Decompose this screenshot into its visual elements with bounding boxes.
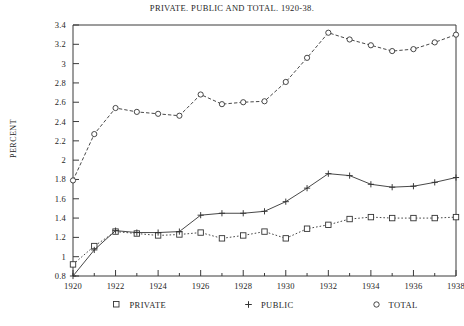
y-tick-label: 1.8 [55,174,66,184]
data-point-plus [389,184,395,190]
x-tick-label: 1928 [234,281,252,291]
data-point-open-circle [390,48,395,53]
x-tick-label: 1936 [405,281,423,291]
legend-item-private[interactable]: PRIVATE [111,299,166,310]
data-point-open-circle [326,30,331,35]
data-point-plus [432,179,438,185]
data-point-open-circle [283,79,288,84]
data-point-open-square [326,222,331,227]
data-point-open-circle [368,43,373,48]
data-point-plus [261,208,267,214]
data-point-plus [304,185,310,191]
series-total [70,30,458,183]
data-point-open-square [432,215,437,220]
data-point-open-circle [432,40,437,45]
open-circle-icon [371,299,382,310]
x-tick-label: 1926 [192,281,210,291]
data-point-open-circle [113,105,118,110]
data-point-plus [219,210,225,216]
legend-item-label: TOTAL [389,300,418,310]
open-square-icon [111,299,122,310]
data-point-open-circle [219,102,224,107]
data-point-plus [283,199,289,205]
data-point-open-square [347,216,352,221]
axes: 0.811.21.41.61.822.22.42.62.833.23.41920… [55,20,464,291]
chart-figure: PRIVATE. PUBLIC AND TOTAL. 1920-38. PERC… [0,0,464,326]
series-private [70,214,458,267]
y-tick-label: 2.8 [55,78,66,88]
data-point-open-circle [70,178,75,183]
data-series [70,30,459,279]
data-point-open-square [304,226,309,231]
y-tick-label: 2.2 [55,136,66,146]
y-tick-label: 2.6 [55,97,66,107]
legend-item-public[interactable]: PUBLIC [243,299,294,310]
data-point-open-circle [241,100,246,105]
x-tick-label: 1932 [319,281,337,291]
series-public [70,171,459,280]
legend-item-label: PUBLIC [261,300,294,310]
data-point-open-square [219,236,224,241]
data-point-open-square [453,214,458,219]
y-tick-label: 0.8 [55,271,66,281]
legend-item-label: PRIVATE [129,300,166,310]
data-point-open-square [411,215,416,220]
data-point-open-circle [198,92,203,97]
data-point-open-square [389,215,394,220]
data-point-open-circle [347,37,352,42]
x-tick-label: 1922 [107,281,125,291]
y-tick-label: 1.6 [55,194,66,204]
x-tick-label: 1924 [149,281,167,291]
x-tick-label: 1930 [277,281,295,291]
data-point-open-square [70,262,75,267]
data-point-plus [368,181,374,187]
legend-item-total[interactable]: TOTAL [371,299,418,310]
data-point-open-circle [92,131,97,136]
plus-icon [243,299,254,310]
data-point-plus [410,183,416,189]
data-point-plus [453,174,459,180]
data-point-plus [240,210,246,216]
data-point-open-circle [262,99,267,104]
data-point-open-square [283,236,288,241]
chart-legend: PRIVATEPUBLICTOTAL [73,299,456,310]
y-tick-label: 3.4 [55,20,67,30]
data-point-open-square [262,229,267,234]
data-point-open-square [368,214,373,219]
data-point-open-circle [304,55,309,60]
x-tick-label: 1920 [64,281,82,291]
data-point-open-circle [177,113,182,118]
data-point-open-circle [134,109,139,114]
y-tick-label: 2 [62,155,66,165]
y-tick-label: 1.2 [55,232,66,242]
data-point-plus [325,171,331,177]
y-tick-label: 1.4 [55,213,67,223]
data-point-open-square [241,233,246,238]
data-point-open-square [198,230,203,235]
y-tick-label: 3 [62,59,66,69]
y-tick-label: 2.4 [55,117,67,127]
x-tick-label: 1938 [447,281,464,291]
data-point-open-circle [156,111,161,116]
x-tick-label: 1934 [362,281,380,291]
data-point-plus [347,173,353,179]
data-point-open-circle [411,47,416,52]
y-tick-label: 1 [62,252,66,262]
data-point-open-circle [453,32,458,37]
y-tick-label: 3.2 [55,39,66,49]
plot-area: 0.811.21.41.61.822.22.42.62.833.23.41920… [0,0,464,326]
